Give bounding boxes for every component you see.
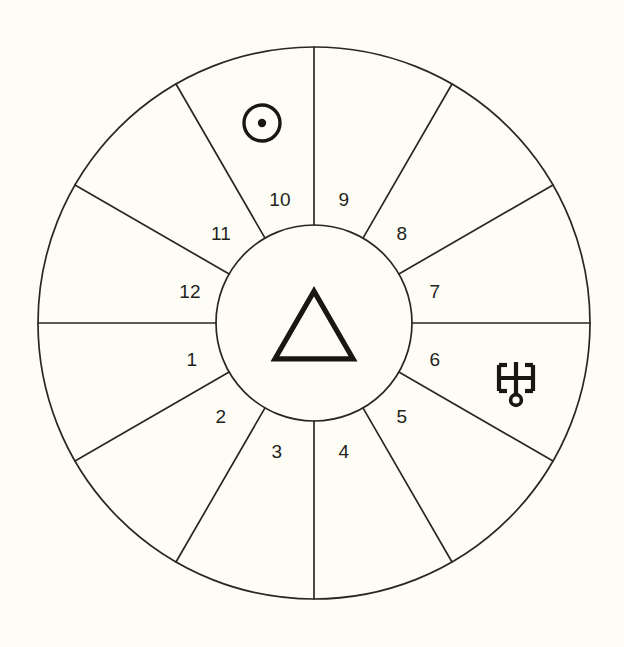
house-number-12: 12 (179, 281, 201, 302)
sun-center-dot (258, 119, 266, 127)
uranus-icon (499, 362, 533, 405)
house-number-8: 8 (397, 223, 408, 244)
inner-circle-group (216, 225, 412, 421)
house-number-11: 11 (211, 223, 231, 244)
house-spoke (176, 408, 265, 562)
house-spoke (363, 408, 452, 562)
house-number-4: 4 (339, 441, 350, 462)
house-number-3: 3 (272, 441, 283, 462)
house-number-10: 10 (269, 189, 291, 210)
house-spokes-group (38, 47, 590, 599)
house-number-9: 9 (339, 189, 350, 210)
house-spoke (363, 84, 452, 238)
house-spoke (399, 372, 553, 461)
sun-icon (244, 105, 280, 141)
astrology-wheel-chart: 123456789101112 (0, 0, 624, 647)
house-spoke (399, 185, 553, 274)
inner-circle (216, 225, 412, 421)
fire-triangle-shape (275, 291, 353, 359)
house-number-2: 2 (216, 406, 227, 427)
fire-triangle-icon (275, 291, 353, 359)
house-spoke (75, 185, 229, 274)
house-number-1: 1 (187, 349, 198, 370)
house-number-7: 7 (430, 281, 441, 302)
house-spoke (75, 372, 229, 461)
wheel-svg: 123456789101112 (0, 0, 624, 647)
uranus-bottom-circle (511, 395, 522, 406)
house-number-5: 5 (397, 406, 408, 427)
house-number-6: 6 (430, 349, 441, 370)
